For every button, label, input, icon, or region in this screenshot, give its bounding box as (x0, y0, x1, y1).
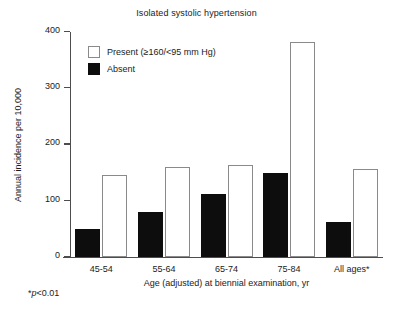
legend-swatch-absent (88, 63, 100, 75)
y-tick: 400 (64, 31, 70, 32)
y-axis-line (70, 32, 71, 257)
x-axis-line (63, 257, 383, 258)
bar-present (290, 42, 315, 257)
bar-present (353, 169, 378, 257)
bar-present (165, 167, 190, 257)
y-tick: 200 (64, 143, 70, 144)
legend-item: Absent (88, 61, 216, 76)
y-tick-label: 300 (45, 81, 60, 92)
legend-label: Present (≥160/<95 mm Hg) (107, 47, 216, 57)
y-tick: 300 (64, 87, 70, 88)
legend-item: Present (≥160/<95 mm Hg) (88, 44, 216, 59)
x-axis-title: Age (adjusted) at biennial examination, … (70, 278, 383, 288)
y-tick: 0 (64, 256, 70, 257)
y-tick-label: 100 (45, 194, 60, 205)
bar-absent (138, 212, 163, 257)
category-label: 55-64 (152, 264, 175, 274)
y-tick-label: 200 (45, 137, 60, 148)
chart-legend: Present (≥160/<95 mm Hg)Absent (88, 44, 216, 78)
footnote-rest: <0.01 (37, 288, 60, 298)
bar-absent (75, 229, 100, 257)
y-axis-title-text: Annual incidence per 10,000 (13, 87, 23, 201)
bar-absent (201, 194, 226, 257)
footnote: *p<0.01 (28, 288, 59, 298)
y-tick-label: 0 (55, 250, 60, 261)
chart-title: Isolated systolic hypertension (0, 8, 393, 18)
legend-swatch-present (88, 46, 100, 58)
y-tick: 100 (64, 200, 70, 201)
legend-label: Absent (107, 64, 135, 74)
bar-present (102, 175, 127, 257)
category-label: 65-74 (215, 264, 238, 274)
y-tick-label: 400 (45, 25, 60, 36)
chart-figure: Isolated systolic hypertension Annual in… (0, 0, 393, 316)
bar-absent (326, 222, 351, 257)
bar-absent (263, 173, 288, 257)
y-axis-title: Annual incidence per 10,000 (12, 32, 24, 257)
category-label: 75-84 (278, 264, 301, 274)
bar-present (228, 165, 253, 257)
category-label: 45-54 (90, 264, 113, 274)
category-label: All ages* (334, 264, 370, 274)
